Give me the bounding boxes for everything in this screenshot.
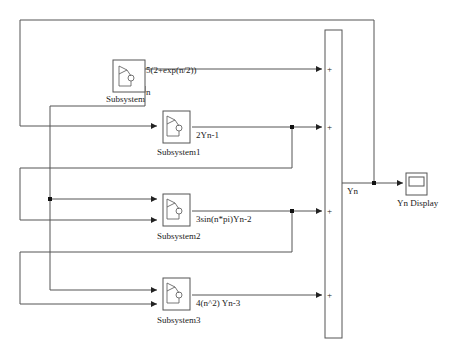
- subsystem-name[interactable]: Subsystem: [106, 95, 145, 104]
- sum-sign: +: [327, 291, 332, 300]
- subsystem1-output-label: 2Yn-1: [196, 131, 219, 140]
- subsystem3-name[interactable]: Subsystem3: [157, 316, 201, 325]
- subsystem2-name[interactable]: Subsystem2: [157, 232, 201, 241]
- subsystem-port-label: n: [146, 88, 151, 97]
- sum-sign: +: [327, 123, 332, 132]
- sum-sign: +: [327, 65, 332, 74]
- subsystem1-name[interactable]: Subsystem1: [157, 148, 201, 157]
- subsystem3-output-label: 4(n^2) Yn-3: [196, 299, 240, 308]
- display-name[interactable]: Yn Display: [397, 199, 438, 208]
- wire-n: [50, 86, 157, 290]
- sum-sign: +: [327, 207, 332, 216]
- subsystem2-output-label: 3sin(n*pi)Yn-2: [196, 215, 252, 224]
- subsystem-output-label: 5(2+exp(n/2)): [146, 66, 197, 75]
- yn-signal-label: Yn: [347, 187, 358, 196]
- feedback-wire-top: [20, 20, 374, 183]
